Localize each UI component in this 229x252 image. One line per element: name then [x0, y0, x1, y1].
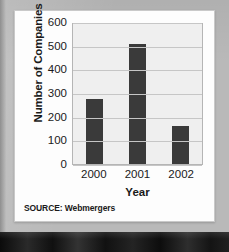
y-axis-tick-label: 600 [35, 17, 67, 29]
x-axis-tick-label: 2001 [117, 168, 157, 180]
source-note: SOURCE: Webmergers [24, 203, 115, 213]
y-axis-tick-label: 200 [35, 112, 67, 124]
gridline [73, 141, 202, 142]
page-left-edge [0, 0, 6, 232]
gridline [73, 94, 202, 95]
gridline [73, 118, 202, 119]
figure-card: Number of Companies 6005004003002001000 … [14, 10, 215, 222]
bar-chart: Number of Companies 6005004003002001000 … [15, 11, 214, 176]
y-axis-tick-label: 300 [35, 88, 67, 100]
x-axis-title: Year [72, 186, 203, 198]
y-axis-tick-label: 400 [35, 65, 67, 77]
y-axis-tick-label: 500 [35, 41, 67, 53]
x-axis-tick-label: 2002 [161, 168, 201, 180]
gridline [73, 70, 202, 71]
bar-2002 [172, 126, 189, 164]
gridline [73, 23, 202, 24]
y-axis-tick-label: 0 [35, 159, 67, 171]
bar-2001 [129, 44, 146, 164]
bar-2000 [86, 99, 103, 164]
gridline [73, 165, 202, 166]
page-bottom-shadow-band [0, 232, 229, 252]
x-axis-tick-labels: 200020012002 [72, 168, 203, 180]
y-axis-tick-label: 100 [35, 136, 67, 148]
scanned-page: Number of Companies 6005004003002001000 … [0, 0, 229, 252]
x-axis-tick-label: 2000 [74, 168, 114, 180]
y-axis-tick-labels: 6005004003002001000 [35, 23, 67, 165]
gridline [73, 47, 202, 48]
plot-area [72, 23, 203, 165]
